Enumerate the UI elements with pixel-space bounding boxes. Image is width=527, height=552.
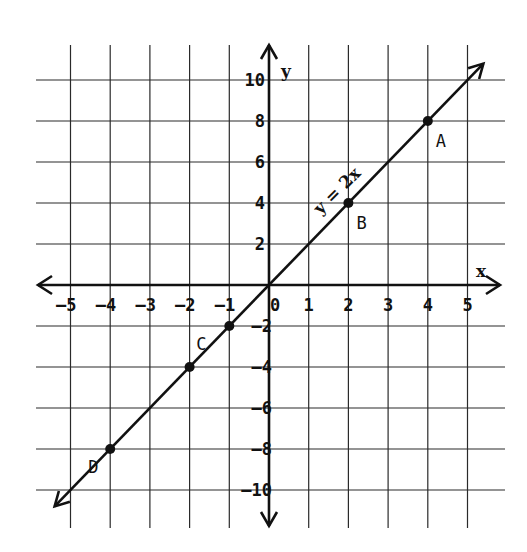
data-point	[185, 362, 195, 372]
point-label-c: C	[196, 334, 206, 354]
y-tick-label: –10	[241, 480, 272, 500]
x-tick-label: –2	[175, 295, 195, 315]
y-tick-label: 4	[255, 193, 265, 213]
equation-label: y = 2x	[309, 162, 365, 218]
x-tick-label: –1	[215, 295, 235, 315]
y-tick-label: 8	[255, 111, 265, 131]
coordinate-plane: –5–4–3–2–1012345108642–2–4–6–8–10 ABCD y…	[0, 0, 527, 552]
x-tick-label: 1	[304, 295, 314, 315]
y-tick-label: 6	[255, 152, 265, 172]
x-tick-label: 2	[343, 295, 353, 315]
x-tick-label: –4	[96, 295, 116, 315]
x-tick-label: 3	[383, 295, 393, 315]
y-tick-label: 10	[245, 70, 265, 90]
data-point	[105, 444, 115, 454]
x-tick-label: 4	[423, 295, 433, 315]
y-axis-label: y	[280, 61, 292, 81]
y-tick-label: –4	[252, 357, 272, 377]
point-label-a: A	[436, 131, 446, 151]
y-tick-label: –2	[252, 316, 272, 336]
x-tick-label: –5	[56, 295, 76, 315]
x-axis-label: x	[476, 261, 487, 281]
x-tick-label: 5	[462, 295, 472, 315]
data-point	[423, 116, 433, 126]
y-tick-label: –6	[252, 398, 272, 418]
x-tick-label: 0	[270, 295, 280, 315]
y-tick-label: –8	[252, 439, 272, 459]
point-label-d: D	[88, 457, 98, 477]
point-label-b: B	[356, 213, 366, 233]
data-point	[343, 198, 353, 208]
data-point	[224, 321, 234, 331]
y-tick-label: 2	[255, 234, 265, 254]
x-tick-label: –3	[135, 295, 155, 315]
